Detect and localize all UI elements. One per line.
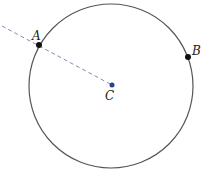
point-c-center bbox=[110, 83, 115, 88]
circle-diagram: A B C bbox=[0, 0, 201, 171]
label-c: C bbox=[105, 89, 114, 103]
dashed-ray-through-a-to-c bbox=[2, 26, 112, 85]
point-b bbox=[185, 54, 191, 60]
label-b: B bbox=[191, 44, 201, 58]
label-a: A bbox=[31, 29, 41, 43]
